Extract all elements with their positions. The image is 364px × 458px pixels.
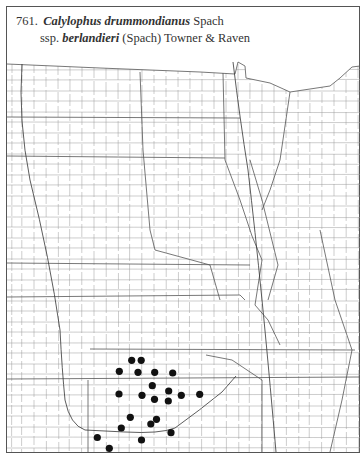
occurrence-dot <box>138 357 145 364</box>
occurrence-dot <box>151 396 158 403</box>
occurrence-dot <box>127 414 134 421</box>
occurrence-dot <box>94 434 101 441</box>
occurrence-dot <box>149 382 156 389</box>
occurrence-dot <box>151 369 158 376</box>
occurrence-dot <box>118 424 125 431</box>
occurrence-dot <box>178 392 185 399</box>
occurrence-dot <box>128 357 135 364</box>
occurrence-dot <box>115 390 122 397</box>
distribution-map <box>0 0 364 458</box>
occurrence-dot <box>153 416 160 423</box>
occurrence-dot <box>138 392 145 399</box>
occurrence-dot <box>165 397 172 404</box>
occurrence-dot <box>196 391 203 398</box>
occurrence-dot <box>165 387 172 394</box>
occurrence-dot <box>167 429 174 436</box>
occurrence-dot <box>138 436 145 443</box>
occurrence-dot <box>147 420 154 427</box>
occurrence-dot <box>116 368 123 375</box>
occurrence-dot <box>106 445 113 452</box>
range-boundary-lines <box>21 62 276 452</box>
occurrence-dot <box>134 369 141 376</box>
occurrence-dot <box>169 369 176 376</box>
occurrence-dots <box>94 357 204 452</box>
